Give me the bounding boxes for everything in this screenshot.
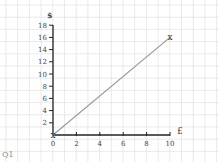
caption: Q1 — [2, 150, 14, 159]
svg-text:8: 8 — [43, 83, 47, 91]
y-axis-label: $ — [47, 10, 53, 20]
svg-text:6: 6 — [121, 140, 126, 148]
svg-text:14: 14 — [38, 46, 47, 54]
svg-text:x: x — [50, 130, 55, 140]
svg-text:4: 4 — [43, 107, 48, 115]
svg-text:2: 2 — [43, 119, 47, 127]
ticks: 024681024681012141618 — [38, 22, 174, 148]
svg-text:10: 10 — [38, 71, 47, 79]
svg-text:4: 4 — [98, 140, 103, 148]
svg-text:8: 8 — [144, 140, 148, 148]
svg-text:6: 6 — [43, 95, 48, 103]
grid — [0, 0, 219, 162]
svg-text:2: 2 — [74, 140, 78, 148]
svg-text:x: x — [167, 32, 172, 42]
svg-text:18: 18 — [38, 22, 47, 30]
chart: 024681024681012141618 $ £ xx — [0, 0, 219, 162]
svg-text:0: 0 — [51, 140, 55, 148]
svg-text:10: 10 — [166, 140, 175, 148]
svg-text:16: 16 — [38, 34, 47, 42]
svg-text:12: 12 — [38, 58, 47, 66]
x-axis-label: £ — [177, 126, 183, 136]
